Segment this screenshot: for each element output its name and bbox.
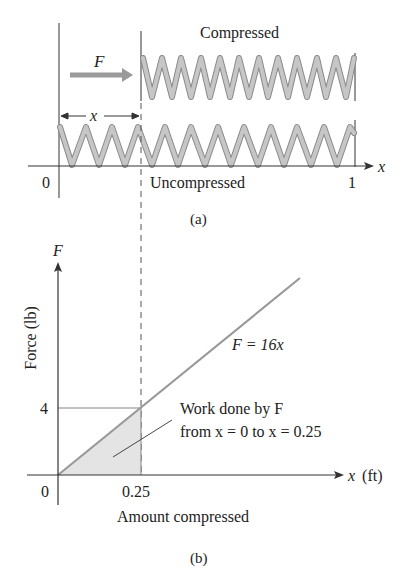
caption-a: (a) — [190, 211, 207, 228]
tick-x-025: 0.25 — [122, 483, 150, 500]
spring-diagram: F Compressed x x 0 1 Uncompressed (a) F … — [0, 0, 405, 581]
displacement-label: x — [89, 107, 97, 124]
force-label: F — [93, 52, 105, 71]
displacement-arrows — [61, 113, 139, 119]
x-axis-label: x (ft) — [347, 467, 383, 485]
compressed-label: Compressed — [200, 24, 279, 42]
tick-0-a: 0 — [42, 174, 50, 191]
y-axis — [54, 262, 62, 505]
force-line — [58, 278, 300, 475]
tick-x-0: 0 — [41, 483, 49, 500]
x-axis-title: Amount compressed — [117, 508, 249, 526]
uncompressed-label: Uncompressed — [150, 174, 245, 192]
compressed-spring — [143, 58, 354, 97]
tick-1-a: 1 — [348, 174, 356, 191]
tick-y-4: 4 — [40, 400, 48, 417]
caption-b: (b) — [190, 550, 208, 567]
y-axis-title: Force (lb) — [22, 306, 40, 370]
annotation-line2: from x = 0 to x = 0.25 — [180, 423, 322, 440]
uncompressed-spring — [60, 127, 354, 165]
top-axis-label: x — [377, 158, 385, 175]
y-axis-symbol: F — [52, 242, 63, 259]
equation-label: F = 16x — [231, 336, 284, 353]
top-x-axis — [28, 162, 374, 170]
annotation-line1: Work done by F — [180, 400, 283, 418]
